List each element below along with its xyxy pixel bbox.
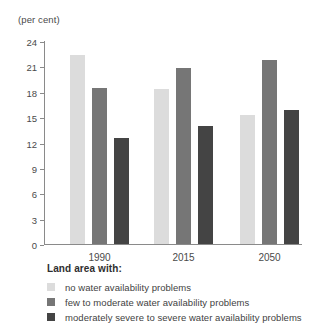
y-axis-label: 0 bbox=[32, 240, 37, 251]
bar[interactable] bbox=[284, 110, 299, 244]
y-axis-tick bbox=[40, 169, 44, 170]
bar[interactable] bbox=[154, 89, 169, 244]
legend-item[interactable]: few to moderate water availability probl… bbox=[47, 296, 309, 308]
bar[interactable] bbox=[262, 60, 277, 244]
bar[interactable] bbox=[114, 138, 129, 244]
y-axis-tick bbox=[40, 93, 44, 94]
y-axis-label: 12 bbox=[26, 138, 37, 149]
bar[interactable] bbox=[92, 88, 107, 244]
y-axis-label: 15 bbox=[26, 113, 37, 124]
legend-swatch bbox=[47, 298, 55, 306]
y-axis-tick bbox=[40, 67, 44, 68]
units-label: (per cent) bbox=[18, 14, 60, 25]
legend-swatch bbox=[47, 313, 55, 321]
x-axis-label: 2015 bbox=[172, 252, 194, 263]
y-axis-label: 21 bbox=[26, 62, 37, 73]
x-axis-label: 1990 bbox=[88, 252, 110, 263]
y-axis-tick bbox=[40, 144, 44, 145]
y-axis-tick bbox=[40, 42, 44, 43]
legend-item[interactable]: moderately severe to severe water availa… bbox=[47, 311, 309, 323]
legend: Land area with: no water availability pr… bbox=[47, 263, 309, 325]
x-axis-label: 2050 bbox=[258, 252, 280, 263]
legend-item[interactable]: no water availability problems bbox=[47, 281, 309, 293]
plot-area: 03691215182124 199020152050 bbox=[44, 41, 302, 245]
y-axis-label: 18 bbox=[26, 87, 37, 98]
legend-title: Land area with: bbox=[47, 263, 309, 274]
bar-group-1990: 1990 bbox=[70, 41, 129, 244]
y-axis-label: 24 bbox=[26, 37, 37, 48]
y-axis-tick bbox=[40, 194, 44, 195]
bar[interactable] bbox=[70, 55, 85, 244]
y-axis-tick bbox=[40, 245, 44, 246]
x-axis-line bbox=[44, 244, 302, 245]
bar-group-2015: 2015 bbox=[154, 41, 213, 244]
y-axis-label: 3 bbox=[32, 214, 37, 225]
legend-label: no water availability problems bbox=[65, 282, 191, 293]
bar[interactable] bbox=[198, 126, 213, 244]
bar[interactable] bbox=[176, 68, 191, 244]
bar[interactable] bbox=[240, 115, 255, 244]
y-axis-label: 9 bbox=[32, 163, 37, 174]
y-axis-tick bbox=[40, 118, 44, 119]
y-axis-tick bbox=[40, 220, 44, 221]
bar-group-2050: 2050 bbox=[240, 41, 299, 244]
legend-rows: no water availability problemsfew to mod… bbox=[47, 281, 309, 323]
y-axis-line bbox=[44, 41, 45, 245]
legend-label: few to moderate water availability probl… bbox=[65, 297, 249, 308]
legend-label: moderately severe to severe water availa… bbox=[65, 312, 302, 323]
y-axis-label: 6 bbox=[32, 189, 37, 200]
legend-swatch bbox=[47, 283, 55, 291]
